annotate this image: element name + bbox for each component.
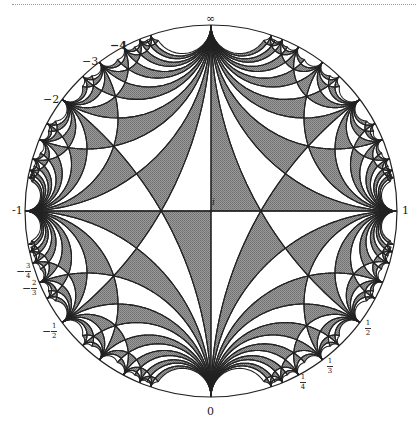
label-neg1: -1 (12, 205, 23, 216)
label-neg2: −2 (43, 94, 59, 105)
point-i (210, 210, 213, 213)
geodesic (390, 175, 391, 176)
label-half: 12 (365, 320, 371, 337)
geodesic (52, 291, 57, 292)
label-neg-three-fourths: −34 (16, 263, 31, 280)
geodesic (388, 244, 394, 245)
label-one: 1 (402, 205, 409, 216)
label-fourth: 14 (300, 374, 306, 391)
label-third: 13 (327, 358, 333, 375)
disk-diagram (0, 0, 416, 427)
label-neg3: −3 (82, 56, 98, 67)
label-i: i (212, 198, 215, 207)
label-zero: 0 (207, 406, 214, 417)
label-infinity: ∞ (206, 13, 215, 24)
geodesic (365, 131, 370, 132)
geodesic (82, 86, 87, 87)
label-neg-two-thirds: −23 (22, 280, 37, 297)
label-neg4: −4 (110, 40, 127, 51)
geodesic (335, 335, 340, 336)
label-neg-half: −12 (42, 323, 57, 340)
